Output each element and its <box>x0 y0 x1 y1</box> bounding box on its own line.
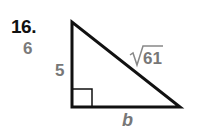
leg-vertical-label: 5 <box>55 61 64 80</box>
right-angle-marker <box>72 89 92 107</box>
leg-horizontal-label: b <box>122 110 133 130</box>
hypotenuse-label: 61 <box>130 46 163 68</box>
triangle-shape <box>72 22 180 107</box>
hypotenuse-value: 61 <box>143 49 162 68</box>
right-triangle-diagram: 5 61 b <box>0 0 197 136</box>
